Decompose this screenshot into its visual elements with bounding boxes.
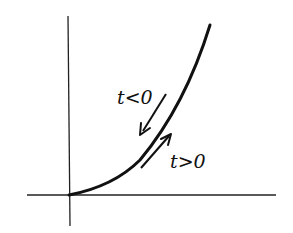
label-t-positive: t>0	[170, 152, 206, 171]
label-t-negative: t<0	[117, 88, 153, 107]
diagram-canvas	[0, 0, 293, 233]
